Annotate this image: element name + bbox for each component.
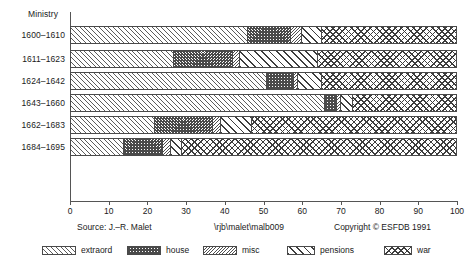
bar-row-label: 1624–1642	[22, 76, 65, 86]
bar-segment-misc	[291, 26, 303, 44]
stacked-bar-chart: Ministry 1600–16101611–16231624–16421643…	[0, 0, 475, 268]
x-axis-tick-mark	[264, 202, 265, 205]
x-axis-tick-mark	[70, 202, 71, 205]
bar-segment-pensions	[341, 94, 353, 112]
bar-track	[70, 138, 457, 156]
bar-row-label: 1662–1683	[22, 120, 65, 130]
x-axis-tick-mark	[418, 202, 419, 205]
bar-segment-house	[248, 26, 291, 44]
bar-segment-pensions	[240, 50, 317, 68]
bar-segment-extraord	[70, 138, 124, 156]
bar-segment-extraord	[70, 50, 174, 68]
bar-segment-extraord	[70, 72, 267, 90]
bar-segment-pensions	[221, 116, 252, 134]
legend-item-war[interactable]: war	[384, 246, 431, 255]
legend-item-house[interactable]: house	[127, 246, 189, 255]
legend: extraordhousemiscpensionswar	[0, 246, 475, 260]
footer: Source: J.–R. Malet \rjb\malet\malb009 C…	[0, 222, 475, 236]
legend-item-misc[interactable]: misc	[203, 246, 259, 255]
legend-item-pensions[interactable]: pensions	[287, 246, 354, 255]
bar-track	[70, 50, 457, 68]
bar-track	[70, 72, 457, 90]
x-axis-tick-label: 100	[450, 206, 464, 216]
bar-track	[70, 116, 457, 134]
bar-row-label: 1684–1695	[22, 142, 65, 152]
x-axis-tick-mark	[147, 202, 148, 205]
x-axis-tick-mark	[302, 202, 303, 205]
legend-swatch-misc-icon	[203, 246, 237, 255]
bar-segment-war	[322, 26, 457, 44]
bar-segment-war	[182, 138, 457, 156]
footer-file-path: \rjb\malet\malb009	[214, 222, 284, 232]
legend-swatch-extraord-icon	[42, 246, 76, 255]
bar-track	[70, 94, 457, 112]
x-axis-tick-mark	[380, 202, 381, 205]
x-axis-tick-label: 30	[181, 206, 190, 216]
bar-segment-house	[267, 72, 294, 90]
x-axis-tick-label: 70	[336, 206, 345, 216]
bar-track	[70, 26, 457, 44]
x-axis-tick-label: 50	[259, 206, 268, 216]
legend-swatch-war-icon	[384, 246, 412, 255]
bar-segment-pensions	[302, 26, 321, 44]
bar-segment-war	[322, 72, 457, 90]
x-axis-tick-label: 90	[414, 206, 423, 216]
legend-label: house	[166, 246, 189, 255]
bar-segment-pensions	[171, 138, 183, 156]
x-axis-tick-label: 40	[220, 206, 229, 216]
bar-segment-house	[174, 50, 232, 68]
x-axis-tick-mark	[186, 202, 187, 205]
x-axis-tick-label: 20	[143, 206, 152, 216]
x-axis-tick-label: 60	[297, 206, 306, 216]
bar-segment-extraord	[70, 26, 248, 44]
bar-segment-war	[353, 94, 457, 112]
x-axis-tick-mark	[109, 202, 110, 205]
bar-segment-pensions	[298, 72, 321, 90]
bar-segment-war	[318, 50, 457, 68]
x-axis-tick-label: 10	[104, 206, 113, 216]
bar-segment-house	[124, 138, 163, 156]
footer-copyright: Copyright © ESFDB 1991	[334, 222, 431, 232]
bar-row-label: 1643–1660	[22, 98, 65, 108]
bar-row-label: 1600–1610	[22, 30, 65, 40]
legend-label: misc	[242, 246, 259, 255]
legend-swatch-pensions-icon	[287, 246, 315, 255]
bar-segment-extraord	[70, 116, 155, 134]
bar-segment-misc	[163, 138, 171, 156]
legend-label: extraord	[81, 246, 112, 255]
x-axis-tick-mark	[225, 202, 226, 205]
legend-label: war	[417, 246, 431, 255]
x-axis-tick-label: 80	[375, 206, 384, 216]
y-axis-title: Ministry	[28, 9, 58, 19]
bar-segment-house	[325, 94, 337, 112]
bar-segment-house	[155, 116, 213, 134]
legend-swatch-house-icon	[127, 246, 161, 255]
bar-segment-extraord	[70, 94, 325, 112]
bar-segment-war	[252, 116, 457, 134]
x-axis-tick-mark	[457, 202, 458, 205]
legend-label: pensions	[320, 246, 354, 255]
x-axis-tick-label: 0	[68, 206, 73, 216]
footer-source: Source: J.–R. Malet	[77, 222, 152, 232]
x-axis-tick-mark	[341, 202, 342, 205]
bar-row-label: 1611–1623	[22, 54, 65, 64]
bar-segment-misc	[233, 50, 241, 68]
bar-segment-misc	[213, 116, 221, 134]
legend-item-extraord[interactable]: extraord	[42, 246, 112, 255]
